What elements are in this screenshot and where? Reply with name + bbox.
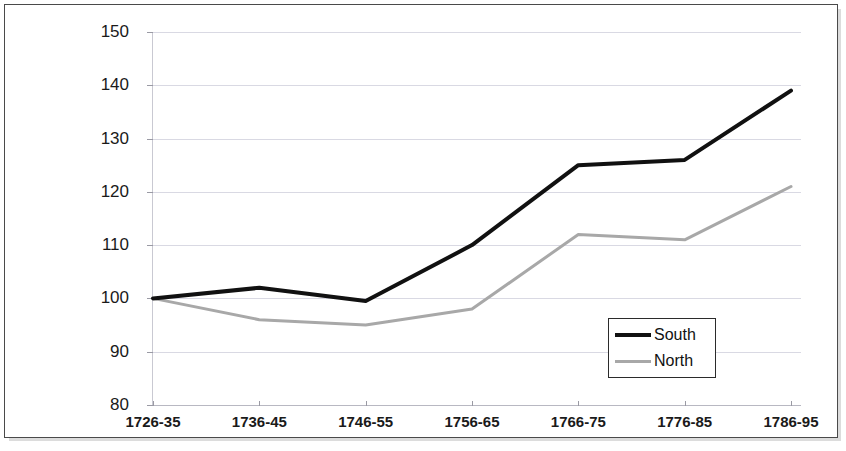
legend-entry-south: South (615, 324, 696, 346)
y-axis-tick-label: 150 (101, 23, 129, 40)
x-axis-tick-label: 1736-45 (232, 414, 287, 429)
y-axis-tick-label: 140 (101, 76, 129, 93)
y-axis-line (152, 32, 153, 405)
legend-label-north: North (654, 353, 693, 369)
x-axis-tick-label: 1766-75 (551, 414, 606, 429)
y-axis-tick-label: 80 (110, 396, 129, 413)
x-axis-tick-mark (578, 401, 579, 406)
x-axis-tick-mark (153, 401, 154, 406)
y-axis-tick-mark (147, 32, 153, 33)
x-axis-tick-label: 1746-55 (338, 414, 393, 429)
chart-legend: South North (608, 318, 716, 378)
x-axis-line (153, 405, 801, 406)
y-axis-tick-mark (147, 245, 153, 246)
y-axis-tick-label: 90 (110, 343, 129, 360)
y-axis-tick-label: 120 (101, 183, 129, 200)
x-axis-tick-mark (366, 401, 367, 406)
y-axis-tick-mark (147, 85, 153, 86)
y-axis-tick-mark (147, 298, 153, 299)
x-axis-tick-mark (472, 401, 473, 406)
legend-swatch-north-icon (615, 360, 651, 363)
x-axis-tick-label: 1756-65 (444, 414, 499, 429)
x-axis-tick-mark (259, 401, 260, 406)
legend-label-south: South (654, 327, 696, 343)
gridline (153, 32, 801, 33)
legend-swatch-south-icon (615, 333, 651, 337)
y-axis-tick-label: 130 (101, 130, 129, 147)
x-axis-tick-label: 1726-35 (125, 414, 180, 429)
x-axis-tick-label: 1786-95 (763, 414, 818, 429)
figure-shadow-right (838, 9, 841, 441)
y-axis-tick-mark (147, 192, 153, 193)
y-axis-tick-label: 110 (102, 236, 129, 253)
x-axis-tick-mark (791, 401, 792, 406)
legend-entry-north: North (615, 350, 693, 372)
y-axis-tick-mark (147, 139, 153, 140)
y-axis-tick-label: 100 (101, 289, 129, 306)
line-chart-figure: 8090100110120130140150 1726-351736-45174… (0, 0, 846, 451)
y-axis-tick-mark (147, 352, 153, 353)
x-axis-tick-label: 1776-85 (657, 414, 712, 429)
x-axis-tick-mark (685, 401, 686, 406)
